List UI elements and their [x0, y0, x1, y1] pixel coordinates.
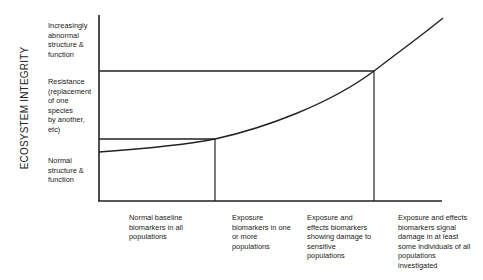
label-line: effects biomarkers [307, 223, 371, 233]
label-line: biomarkers in one [232, 223, 291, 233]
x-stage-3-label: Exposure and effects biomarkers showing … [307, 213, 371, 261]
label-line: populations [232, 242, 291, 252]
label-line: abnormal [48, 31, 98, 41]
y-level-resistance-label: Resistance (replacement of one species b… [48, 77, 98, 135]
label-line: populations [398, 251, 470, 261]
label-line: Normal [48, 156, 98, 166]
label-line: investigated [398, 261, 470, 271]
label-line: function [48, 175, 98, 185]
label-line: biomarkers signal [398, 223, 470, 233]
y-level-normal-label: Normal structure & function [48, 156, 98, 185]
label-line: species [48, 106, 98, 116]
label-line: Exposure and [307, 213, 371, 223]
x-stage-1-label: Normal baseline biomarkers in all popula… [129, 213, 183, 242]
label-line: (replacement [48, 87, 98, 97]
label-line: biomarkers in all [129, 223, 183, 233]
y-level-abnormal-label: Increasingly abnormal structure & functi… [48, 21, 98, 59]
x-stage-4-label: Exposure and effects biomarkers signal d… [398, 213, 470, 271]
label-line: Exposure [232, 213, 291, 223]
label-line: function [48, 50, 98, 60]
label-line: etc) [48, 125, 98, 135]
label-line: structure & [48, 166, 98, 176]
label-line: by another, [48, 115, 98, 125]
label-line: populations [307, 251, 371, 261]
integrity-response-curve [99, 18, 443, 152]
label-line: Normal baseline [129, 213, 183, 223]
label-line: damage in at least [398, 232, 470, 242]
label-line: Exposure and effects [398, 213, 470, 223]
label-line: structure & [48, 40, 98, 50]
label-line: showing damage to [307, 232, 371, 242]
y-axis-title: ECOSYSTEM INTEGRITY [19, 47, 30, 170]
label-line: sensitive [307, 242, 371, 252]
label-line: some individuals of all [398, 242, 470, 252]
x-stage-2-label: Exposure biomarkers in one or more popul… [232, 213, 291, 251]
label-line: Resistance [48, 77, 98, 87]
label-line: Increasingly [48, 21, 98, 31]
label-line: or more [232, 232, 291, 242]
label-line: of one [48, 96, 98, 106]
label-line: populations [129, 232, 183, 242]
